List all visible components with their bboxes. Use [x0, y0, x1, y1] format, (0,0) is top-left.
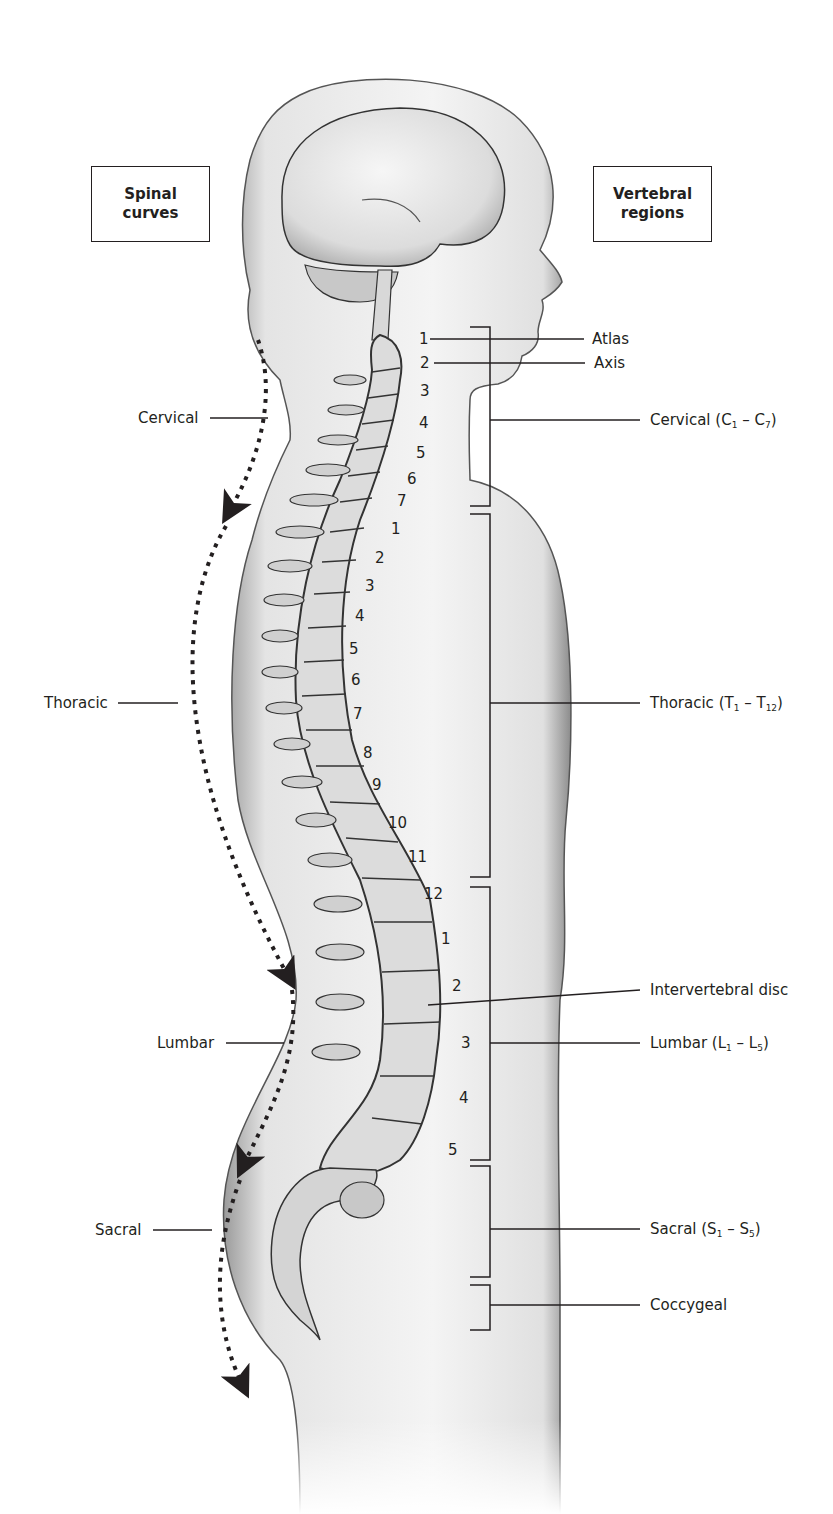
- label-thoracic-region: Thoracic (T1 – T12): [650, 694, 783, 717]
- label-sacral-region: Sacral (S1 – S5): [650, 1220, 761, 1243]
- region-start: L: [718, 1034, 726, 1052]
- curve-label-cervical: Cervical: [138, 409, 199, 427]
- region-name: Sacral (: [650, 1220, 707, 1238]
- region-dash: –: [739, 694, 756, 712]
- region-close: ): [777, 694, 783, 712]
- label-axis: Axis: [594, 354, 625, 372]
- cervical-number: 1: [419, 331, 429, 347]
- region-close: ): [771, 411, 777, 429]
- region-name: Cervical (: [650, 411, 721, 429]
- region-end: S: [739, 1220, 749, 1238]
- label-lumbar-region: Lumbar (L1 – L5): [650, 1034, 769, 1057]
- header-left-line1: Spinal: [124, 185, 177, 203]
- thoracic-number: 11: [408, 849, 427, 865]
- region-start: T: [725, 694, 734, 712]
- label-atlas: Atlas: [592, 330, 629, 348]
- region-name: Thoracic (: [650, 694, 725, 712]
- brain: [282, 108, 505, 266]
- region-end: T: [756, 694, 765, 712]
- region-end: C: [754, 411, 764, 429]
- lumbar-number: 2: [452, 978, 462, 994]
- region-close: ): [763, 1034, 769, 1052]
- curve-label-thoracic: Thoracic: [44, 694, 108, 712]
- spine-diagram: Spinalcurves Vertebralregions Cervical T…: [0, 0, 833, 1514]
- region-start: C: [721, 411, 731, 429]
- cervical-number: 3: [420, 383, 430, 399]
- thoracic-number: 8: [363, 745, 373, 761]
- thoracic-number: 6: [351, 672, 361, 688]
- vertebral-regions-header: Vertebralregions: [593, 166, 712, 242]
- thoracic-number: 7: [353, 706, 363, 722]
- thoracic-number: 3: [365, 578, 375, 594]
- cervical-number: 4: [419, 415, 429, 431]
- cervical-number: 5: [416, 445, 426, 461]
- cervical-number: 2: [420, 355, 430, 371]
- region-dash: –: [732, 1034, 749, 1052]
- lumbar-number: 5: [448, 1142, 458, 1158]
- thoracic-number: 9: [372, 777, 382, 793]
- region-dash: –: [722, 1220, 739, 1238]
- region-name: Lumbar (: [650, 1034, 718, 1052]
- lumbar-number: 1: [441, 931, 451, 947]
- region-dash: –: [737, 411, 754, 429]
- header-left-line2: curves: [123, 204, 179, 222]
- label-coccygeal: Coccygeal: [650, 1296, 727, 1314]
- header-right-line2: regions: [621, 204, 684, 222]
- region-close: ): [755, 1220, 761, 1238]
- thoracic-number: 1: [391, 521, 401, 537]
- curve-label-lumbar: Lumbar: [157, 1034, 214, 1052]
- spinal-curves-header: Spinalcurves: [91, 166, 210, 242]
- thoracic-number: 12: [424, 886, 443, 902]
- cervical-number: 7: [397, 493, 407, 509]
- thoracic-number: 10: [388, 815, 407, 831]
- cervical-curve-arrow: [230, 340, 266, 510]
- thoracic-number: 5: [349, 641, 359, 657]
- lumbar-number: 3: [461, 1035, 471, 1051]
- thoracic-number: 4: [355, 608, 365, 624]
- lumbar-number: 4: [459, 1090, 469, 1106]
- label-cervical-region: Cervical (C1 – C7): [650, 411, 776, 434]
- region-end: L: [749, 1034, 757, 1052]
- region-start: S: [707, 1220, 717, 1238]
- header-right-line1: Vertebral: [613, 185, 692, 203]
- curve-label-sacral: Sacral: [95, 1221, 142, 1239]
- body-silhouette: [223, 79, 570, 1514]
- thoracic-number: 2: [375, 550, 385, 566]
- label-intervertebral-disc: Intervertebral disc: [650, 981, 788, 999]
- cervical-number: 6: [407, 471, 417, 487]
- region-end-index: 12: [766, 703, 777, 713]
